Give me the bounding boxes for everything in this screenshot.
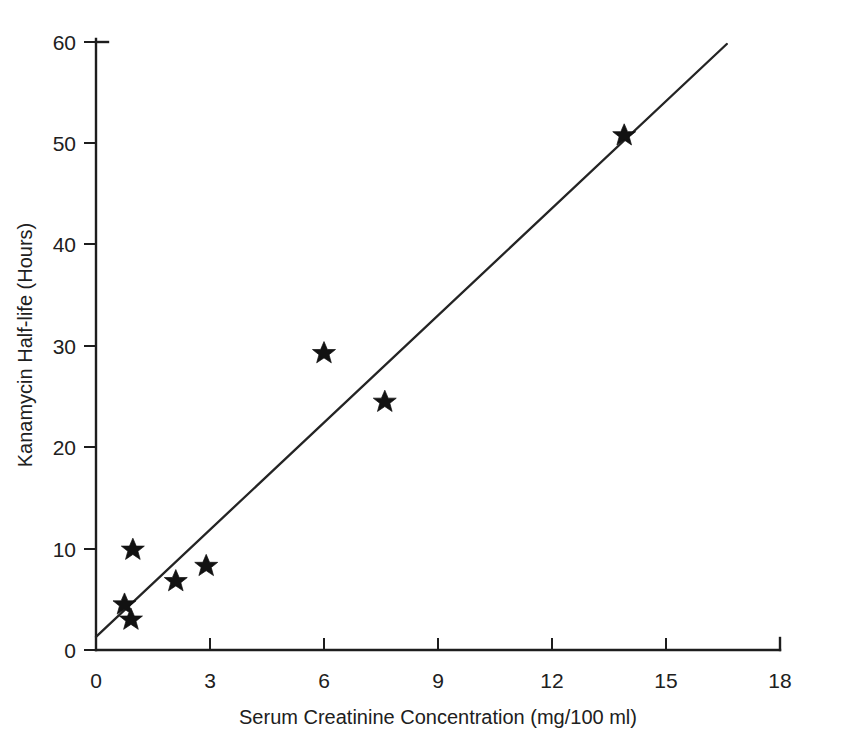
x-tick-label-15: 15 bbox=[654, 669, 677, 692]
y-tick-label-10: 10 bbox=[53, 538, 76, 561]
x-tick-label-18: 18 bbox=[768, 669, 791, 692]
y-tick-label-30: 30 bbox=[53, 335, 76, 358]
y-axis-title: Kanamycin Half-life (Hours) bbox=[14, 223, 36, 468]
x-tick-label-12: 12 bbox=[540, 669, 563, 692]
x-axis-title: Serum Creatinine Concentration (mg/100 m… bbox=[239, 706, 637, 728]
figure-container: 0 10 20 30 40 50 60 0 3 6 9 12 15 18 bbox=[0, 0, 860, 745]
y-tick-label-40: 40 bbox=[53, 233, 76, 256]
scatter-plot: 0 10 20 30 40 50 60 0 3 6 9 12 15 18 bbox=[0, 0, 860, 745]
x-tick-label-6: 6 bbox=[318, 669, 330, 692]
x-tick-label-9: 9 bbox=[432, 669, 444, 692]
y-tick-label-50: 50 bbox=[53, 132, 76, 155]
x-tick-label-3: 3 bbox=[204, 669, 216, 692]
y-tick-label-20: 20 bbox=[53, 436, 76, 459]
x-tick-label-0: 0 bbox=[90, 669, 102, 692]
y-tick-label-60: 60 bbox=[53, 31, 76, 54]
y-tick-label-0: 0 bbox=[64, 639, 76, 662]
plot-background bbox=[0, 0, 860, 745]
